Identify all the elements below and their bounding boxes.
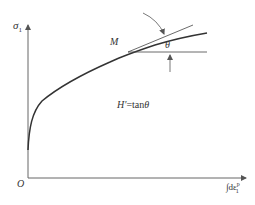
curved-arrow-icon [143, 13, 164, 34]
origin-label: O [17, 179, 24, 189]
y-axis-label: σ1 [13, 20, 22, 34]
hardening-modulus-formula: H′=tanθ [117, 100, 149, 110]
angle-theta-label: θ [165, 40, 170, 50]
x-axis-label: ∫dεp1 [226, 181, 239, 194]
tangent-line [128, 25, 193, 52]
hardening-curve [28, 33, 207, 150]
point-m-label: M [110, 37, 118, 47]
